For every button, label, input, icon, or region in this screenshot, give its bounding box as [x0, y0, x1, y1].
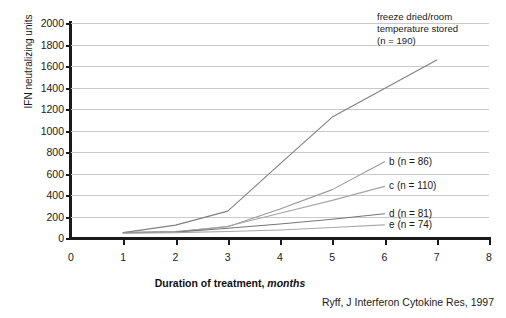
x-axis-title: Duration of treatment, months: [0, 277, 460, 289]
citation: Ryff, J Interferon Cytokine Res, 1997: [322, 296, 494, 308]
series-line-d: [123, 214, 384, 233]
series-label: b (n = 86): [389, 156, 432, 167]
series-label: c (n = 110): [389, 180, 436, 191]
series-line-a: [123, 60, 437, 233]
chart-figure: IFN neutralizing units 02004006008001000…: [0, 0, 506, 318]
x-axis-title-plain: Duration of treatment,: [155, 277, 265, 289]
series-label: e (n = 74): [389, 219, 432, 230]
annotation-freeze-dried: freeze dried/room temperature stored (n …: [377, 11, 458, 48]
x-axis-title-italic: months: [264, 277, 305, 289]
series-label: d (n = 81): [389, 208, 432, 219]
